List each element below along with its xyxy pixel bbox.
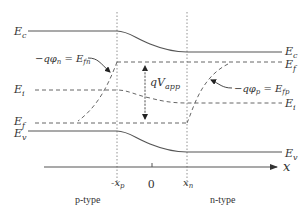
tick-label-xn: xn [183, 177, 194, 190]
electron-quasi-fermi-curve [78, 62, 117, 121]
qvapp-label: qVapp [150, 76, 180, 91]
efn-callout-arrow [88, 58, 110, 72]
ef-right-label: Ef [284, 58, 298, 73]
n-type-region-label: n-type [210, 194, 236, 205]
ec-left-label: Ec [13, 25, 27, 40]
efn-annotation: −qφn = Efn [35, 53, 91, 66]
ei-right-label: Ei [284, 97, 296, 112]
p-type-region-label: p-type [75, 194, 101, 205]
x-axis-label: x [283, 159, 291, 174]
ei-left-label: Ei [13, 83, 25, 98]
efp-annotation: −qφp = Efp [234, 83, 290, 96]
tick-label-neg-xp: -xp [111, 177, 125, 190]
hole-quasi-fermi-curve [187, 64, 228, 123]
efp-callout-arrow [211, 80, 232, 88]
conduction-band [28, 31, 282, 52]
band-diagram: Ec Ei Ef Ev Ec Ef Ei Ev −qφn = Efn −qφp … [0, 0, 308, 215]
tick-label-zero: 0 [148, 176, 155, 191]
valence-band [28, 131, 282, 152]
